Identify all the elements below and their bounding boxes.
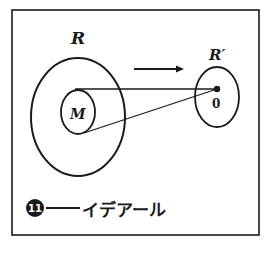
figure-number-badge: 11: [26, 199, 44, 217]
label-m: M: [69, 106, 86, 122]
caption-dash: [46, 207, 80, 209]
label-r-prime: R′: [208, 46, 225, 64]
label-zero: 0: [212, 97, 220, 111]
image-point-dot: [214, 86, 220, 92]
caption-text: イデアール: [82, 196, 166, 221]
label-r: R: [70, 28, 85, 48]
arrow-right-icon: [134, 66, 184, 73]
figure-caption: 11 イデアール: [26, 196, 166, 220]
